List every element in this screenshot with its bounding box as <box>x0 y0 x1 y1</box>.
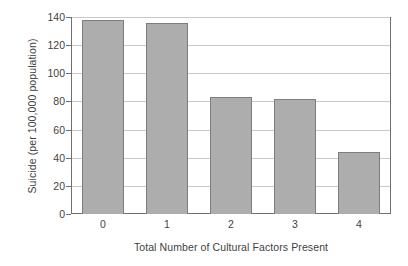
y-axis-tick-label: 120 <box>25 40 65 50</box>
plot-area <box>71 17 391 214</box>
y-axis-tick-label: 60 <box>25 125 65 135</box>
x-axis-title: Total Number of Cultural Factors Present <box>71 241 391 253</box>
gridline <box>72 130 390 131</box>
y-axis-tick-mark <box>66 101 71 102</box>
y-axis-tick-mark <box>66 45 71 46</box>
y-axis-tick-mark <box>66 186 71 187</box>
gridline <box>72 101 390 102</box>
x-axis-tick-label: 1 <box>135 218 199 230</box>
y-axis-tick-mark <box>66 73 71 74</box>
x-axis-tick-label: 4 <box>327 218 391 230</box>
y-axis-tick-label: 0 <box>25 209 65 219</box>
gridline <box>72 158 390 159</box>
y-axis-tick-mark <box>66 214 71 215</box>
gridline <box>72 186 390 187</box>
x-axis-tick-label: 3 <box>263 218 327 230</box>
gridline <box>72 17 390 18</box>
y-axis-tick-mark <box>66 17 71 18</box>
y-axis-tick-mark <box>66 130 71 131</box>
x-axis-tick-label: 2 <box>199 218 263 230</box>
gridline <box>72 45 390 46</box>
y-axis-tick-label: 140 <box>25 12 65 22</box>
gridline <box>72 73 390 74</box>
y-axis-tick-label: 80 <box>25 96 65 106</box>
x-axis-tick-label: 0 <box>71 218 135 230</box>
y-axis-tick-label: 20 <box>25 181 65 191</box>
x-axis-tick-labels: 01234 <box>71 218 391 230</box>
y-axis-tick-mark <box>66 158 71 159</box>
y-axis-tick-label: 40 <box>25 153 65 163</box>
y-axis-tick-label: 100 <box>25 68 65 78</box>
bar-chart-figure: Suicide (per 100,000 population) 01234 T… <box>0 0 408 266</box>
